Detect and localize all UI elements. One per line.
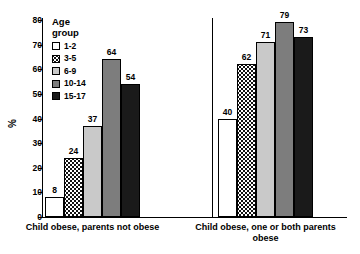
- bar-value-label: 37: [79, 115, 106, 124]
- legend-item-label: 1-2: [64, 42, 76, 51]
- legend-item: 1-2: [52, 42, 126, 51]
- bar-value-label: 62: [233, 53, 260, 62]
- y-tick: 40: [0, 115, 42, 123]
- bar: [275, 22, 294, 217]
- y-tick: 80: [0, 16, 42, 24]
- bar: [237, 64, 256, 217]
- bar-value-label: 24: [60, 147, 87, 156]
- bar: [121, 84, 140, 217]
- y-tick: 20: [0, 164, 42, 172]
- bar: [294, 37, 313, 217]
- bar: [218, 119, 237, 218]
- bar-chart: % 01020304050607080 8243764544062717973 …: [0, 0, 360, 254]
- x-axis-line: [42, 217, 347, 218]
- legend-items: 1-23-56-910-1415-17: [52, 42, 126, 101]
- bar-value-label: 73: [290, 26, 317, 35]
- y-tick-mark: [38, 217, 42, 218]
- legend-swatch-icon: [52, 80, 60, 88]
- y-axis-label: %: [7, 109, 18, 139]
- legend-item: 6-9: [52, 67, 126, 76]
- y-tick: 50: [0, 90, 42, 98]
- legend-swatch-icon: [52, 92, 60, 100]
- legend: Age group 1-23-56-910-1415-17: [52, 16, 126, 101]
- legend-item: 10-14: [52, 79, 126, 88]
- legend-title-line1: Age: [52, 16, 126, 27]
- bar-value-label: 79: [271, 11, 298, 20]
- y-tick: 30: [0, 139, 42, 147]
- legend-swatch-icon: [52, 55, 60, 63]
- x-category-label: Child obese, parents not obese: [13, 222, 173, 233]
- group-separator: [212, 18, 213, 217]
- x-category-label: Child obese, one or both parents obese: [186, 222, 346, 244]
- bar: [83, 126, 102, 217]
- bar-value-label: 71: [252, 31, 279, 40]
- legend-title-line2: group: [52, 27, 126, 38]
- legend-item-label: 3-5: [64, 54, 76, 63]
- legend-swatch-icon: [52, 67, 60, 75]
- bar: [45, 197, 64, 217]
- bar-value-label: 40: [214, 108, 241, 117]
- y-tick: 0: [0, 213, 42, 221]
- legend-swatch-icon: [52, 42, 60, 50]
- y-tick: 70: [0, 41, 42, 49]
- bar-value-label: 8: [41, 186, 68, 195]
- legend-item: 3-5: [52, 54, 126, 63]
- bar: [256, 42, 275, 217]
- y-tick: 60: [0, 65, 42, 73]
- legend-item-label: 6-9: [64, 67, 76, 76]
- legend-item-label: 10-14: [64, 79, 86, 88]
- y-tick: 10: [0, 188, 42, 196]
- legend-item-label: 15-17: [64, 92, 86, 101]
- legend-item: 15-17: [52, 92, 126, 101]
